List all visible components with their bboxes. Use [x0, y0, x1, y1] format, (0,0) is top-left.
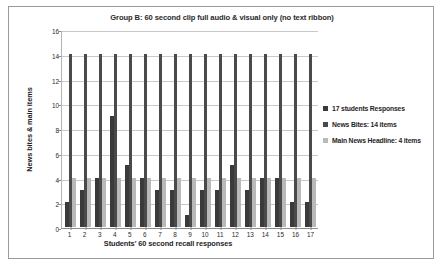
x-axis-tick-mark: [160, 227, 161, 230]
bar: [230, 165, 233, 227]
bar-group: [93, 31, 108, 227]
chart-legend: 17 students ResponsesNews Bites: 14 item…: [323, 105, 435, 153]
bar: [192, 178, 195, 228]
bar: [275, 178, 278, 228]
legend-swatch-icon: [323, 106, 328, 111]
bar: [95, 178, 98, 228]
bar-group: [228, 31, 243, 227]
bar: [279, 54, 281, 227]
x-axis-tick-label: 15: [273, 231, 288, 238]
x-axis-tick-label: 5: [122, 231, 137, 238]
bar: [125, 165, 128, 227]
x-axis-tick-mark: [175, 227, 176, 230]
x-axis-tick-label: 4: [107, 231, 122, 238]
x-axis-tick-mark: [70, 227, 71, 230]
bar: [234, 54, 236, 227]
bar-group: [123, 31, 138, 227]
bar: [84, 54, 86, 227]
bar: [129, 54, 131, 227]
plot-frame: [61, 31, 318, 229]
bar: [170, 190, 173, 227]
bar-group: [198, 31, 213, 227]
legend-item: News Bites: 14 items: [323, 121, 435, 128]
bar-group: [213, 31, 228, 227]
bar: [140, 178, 143, 228]
bar: [260, 178, 263, 228]
y-axis-tick-label: 6: [45, 151, 59, 158]
y-axis-tick-mark: [58, 229, 61, 230]
bar: [117, 178, 120, 228]
bar: [309, 54, 311, 227]
bar: [147, 178, 150, 228]
y-axis-tick-mark: [58, 180, 61, 181]
x-axis-tick-mark: [130, 227, 131, 230]
legend-swatch-icon: [323, 122, 328, 127]
bar-group: [273, 31, 288, 227]
y-axis-tick-mark: [58, 31, 61, 32]
y-axis-tick-label: 4: [45, 176, 59, 183]
x-axis-tick-mark: [115, 227, 116, 230]
bar: [99, 54, 101, 227]
bar: [204, 54, 206, 227]
x-axis-tick-label: 10: [198, 231, 213, 238]
chart-figure: Group B: 60 second clip full audio & vis…: [8, 6, 434, 259]
bar-group: [168, 31, 183, 227]
y-axis-tick-label: 0: [45, 226, 59, 233]
bar: [222, 178, 225, 228]
x-axis-tick-mark: [235, 227, 236, 230]
bar: [114, 54, 116, 227]
bar-group: [243, 31, 258, 227]
bar: [207, 178, 210, 228]
bar: [297, 178, 300, 228]
legend-label: Main News Headline: 4 items: [332, 137, 421, 144]
bar: [80, 190, 83, 227]
bar: [174, 54, 176, 227]
bar: [189, 54, 191, 227]
bar: [185, 215, 188, 227]
x-axis-tick-label: 12: [228, 231, 243, 238]
bar-group: [183, 31, 198, 227]
bar: [245, 190, 248, 227]
bar: [267, 178, 270, 228]
bar: [252, 178, 255, 228]
y-axis-tick-mark: [58, 81, 61, 82]
x-axis-tick-mark: [145, 227, 146, 230]
x-axis-tick-label: 6: [137, 231, 152, 238]
y-axis-title: News bites & main items: [25, 60, 34, 200]
x-axis-tick-mark: [265, 227, 266, 230]
y-axis-tick-label: 14: [45, 52, 59, 59]
y-axis-tick-mark: [58, 204, 61, 205]
bar: [65, 202, 68, 227]
plot-area: 0246810121416 1234567891011121314151617: [53, 31, 318, 236]
legend-item: 17 students Responses: [323, 105, 435, 112]
bar-group: [108, 31, 123, 227]
x-axis-tick-mark: [250, 227, 251, 230]
bar: [305, 202, 308, 227]
x-axis-tick-labels: 1234567891011121314151617: [62, 231, 318, 238]
y-axis-tick-label: 2: [45, 201, 59, 208]
x-axis-tick-mark: [100, 227, 101, 230]
x-axis-tick-label: 3: [92, 231, 107, 238]
y-axis-tick-label: 12: [45, 77, 59, 84]
bar: [282, 178, 285, 228]
y-axis-tick-label: 10: [45, 102, 59, 109]
x-axis-title: Students' 60 second recall responses: [43, 239, 293, 248]
x-axis-tick-mark: [220, 227, 221, 230]
bar: [219, 54, 221, 227]
x-axis-tick-label: 14: [258, 231, 273, 238]
x-axis-tick-label: 11: [213, 231, 228, 238]
bar: [200, 190, 203, 227]
bar: [69, 54, 71, 227]
bar: [162, 178, 165, 228]
legend-item: Main News Headline: 4 items: [323, 137, 435, 144]
y-axis-tick-label: 8: [45, 127, 59, 134]
legend-swatch-icon: [323, 138, 328, 143]
bar-group: [63, 31, 78, 227]
bar: [264, 54, 266, 227]
x-axis-tick-label: 2: [77, 231, 92, 238]
x-axis-tick-mark: [205, 227, 206, 230]
bar: [72, 178, 75, 228]
bar: [132, 178, 135, 228]
bar-group: [138, 31, 153, 227]
y-axis-tick-mark: [58, 56, 61, 57]
